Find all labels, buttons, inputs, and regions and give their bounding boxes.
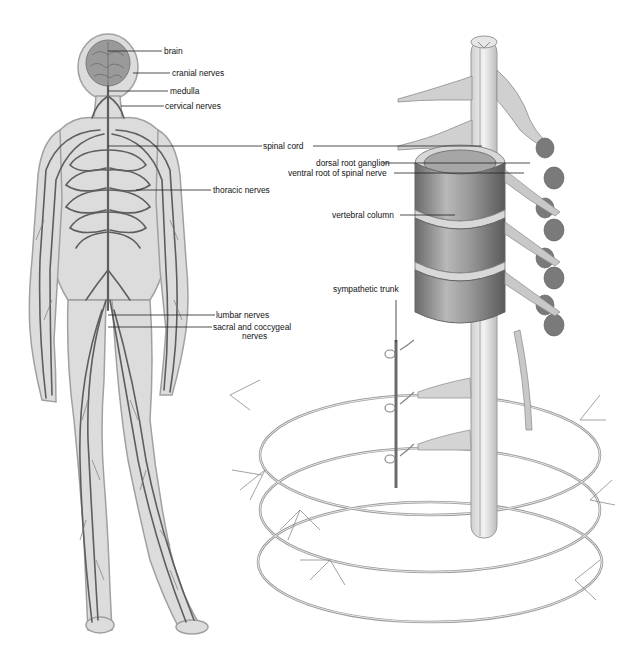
label-vertebral-column: vertebral column: [332, 211, 394, 220]
label-dorsal-root-ganglion: dorsal root ganglion: [316, 159, 390, 168]
lower-nerve-roots: [418, 378, 471, 450]
label-thoracic-nerves: thoracic nerves: [213, 186, 270, 195]
label-cervical-nerves: cervical nerves: [165, 102, 221, 111]
label-ventral-root: ventral root of spinal nerve: [288, 169, 387, 178]
label-sacral-coccygeal-nerves-line2: nerves: [242, 332, 267, 341]
label-brain: brain: [164, 47, 183, 56]
label-cranial-nerves: cranial nerves: [172, 69, 224, 78]
label-spinal-cord: spinal cord: [263, 142, 304, 151]
intercostal-nerve-rings: [258, 395, 602, 622]
human-figure: [29, 34, 208, 634]
sympathetic-trunk: [385, 340, 414, 488]
peripheral-branches: [230, 380, 615, 600]
left-arm: [156, 130, 188, 395]
vertebral-column: [415, 145, 505, 323]
label-sympathetic-trunk: sympathetic trunk: [333, 285, 399, 294]
label-medulla: medulla: [170, 87, 199, 96]
label-lumbar-nerves: lumbar nerves: [216, 311, 269, 320]
nervous-system-illustration: [0, 0, 630, 671]
